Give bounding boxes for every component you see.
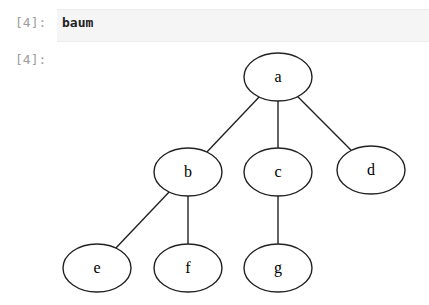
tree-node-a: a bbox=[244, 53, 312, 101]
edge-a-b bbox=[207, 97, 259, 152]
edge-b-e bbox=[116, 192, 169, 248]
edge-a-d bbox=[298, 97, 352, 151]
tree-node-f: f bbox=[154, 244, 222, 292]
node-label: d bbox=[367, 161, 375, 178]
node-label: b bbox=[184, 163, 192, 180]
node-label: a bbox=[274, 68, 281, 85]
tree-graph: abcdefg bbox=[0, 0, 429, 305]
tree-node-c: c bbox=[244, 148, 312, 196]
tree-node-b: b bbox=[154, 148, 222, 196]
tree-nodes: abcdefg bbox=[63, 53, 405, 292]
tree-node-d: d bbox=[337, 146, 405, 194]
tree-node-e: e bbox=[63, 244, 131, 292]
node-label: e bbox=[93, 259, 100, 276]
node-label: c bbox=[274, 163, 281, 180]
node-label: f bbox=[185, 259, 191, 276]
node-label: g bbox=[274, 259, 282, 277]
tree-edges bbox=[116, 97, 351, 248]
tree-node-g: g bbox=[244, 244, 312, 292]
